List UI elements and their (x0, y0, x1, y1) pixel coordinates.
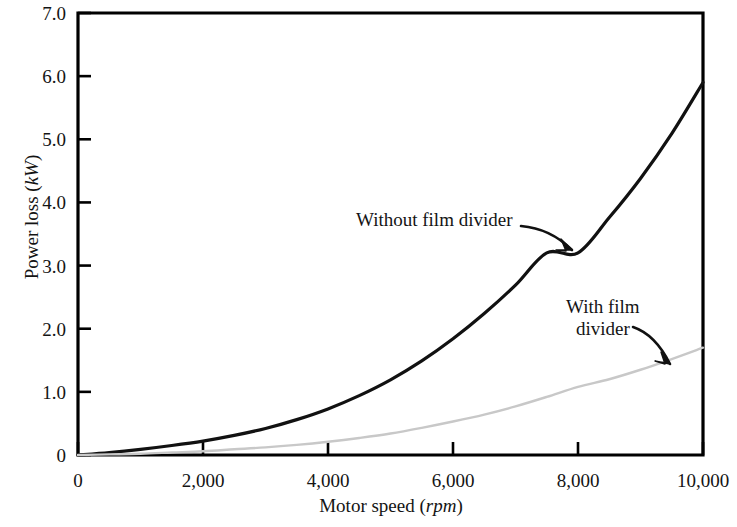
annotation-with-film-divider: With film divider (566, 296, 640, 340)
y-axis-title-text: Power loss ( (21, 185, 42, 279)
y-axis-unit: kW (21, 161, 42, 185)
y-tick-label: 7.0 (8, 4, 66, 23)
y-tick-label: 0 (8, 446, 66, 465)
x-tick-label: 8,000 (518, 471, 638, 490)
chart-canvas (0, 0, 737, 527)
y-tick-label: 6.0 (8, 67, 66, 86)
x-axis-title-inner: Motor speed (rpm) (319, 495, 463, 516)
x-axis-title: Motor speed (rpm) (78, 496, 704, 516)
x-axis-unit: rpm (426, 495, 457, 516)
annotation-without-film-divider: Without film divider (356, 209, 513, 231)
plot-frame (78, 13, 703, 455)
chart-figure: 01.02.03.04.05.06.07.0 02,0004,0006,0008… (0, 0, 737, 527)
x-tick-label: 10,000 (643, 471, 737, 490)
y-tick-label: 1.0 (8, 383, 66, 402)
x-tick-label: 4,000 (268, 471, 388, 490)
x-tick-label: 6,000 (393, 471, 513, 490)
y-axis-title: Power loss (kW) (22, 107, 42, 327)
frame-rect (78, 13, 703, 455)
y-axis-title-inner: Power loss (kW) (21, 155, 42, 280)
y-axis-title-close: ) (21, 155, 42, 161)
x-axis-title-close: ) (456, 495, 462, 516)
x-tick-label: 0 (18, 471, 138, 490)
x-tick-label: 2,000 (143, 471, 263, 490)
x-axis-title-text: Motor speed ( (319, 495, 426, 516)
